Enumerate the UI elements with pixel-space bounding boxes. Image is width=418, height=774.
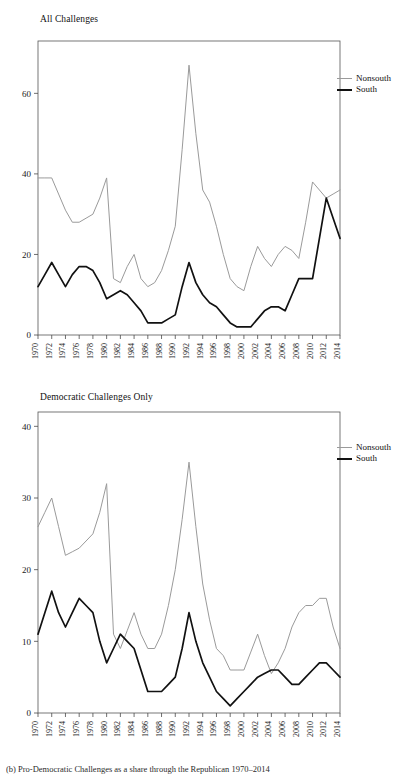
- x-axis-tick-label: 2010: [306, 343, 315, 359]
- x-axis-tick-label: 2012: [319, 343, 328, 359]
- x-axis-tick-label: 2006: [278, 343, 287, 359]
- y-axis-tick-label: 20: [22, 250, 32, 260]
- x-axis-tick-label: 2002: [251, 343, 260, 359]
- plot-frame: [38, 41, 340, 335]
- x-axis-tick-label: 1974: [58, 721, 67, 737]
- x-axis-tick-label: 1984: [127, 343, 136, 359]
- x-axis-tick-label: 1990: [168, 721, 177, 737]
- x-axis-tick-label: 1970: [31, 343, 40, 359]
- y-axis-tick-label: 0: [27, 708, 32, 718]
- series-line-nonsouth: [38, 462, 340, 673]
- legend-row-nonsouth: Nonsouth: [337, 442, 391, 453]
- x-axis-tick-label: 1998: [223, 721, 232, 737]
- x-axis-tick-label: 2004: [264, 343, 273, 359]
- series-line-south: [38, 198, 340, 327]
- y-axis-tick-label: 40: [22, 422, 32, 432]
- x-axis-tick-label: 1994: [196, 721, 205, 737]
- y-axis-tick-label: 20: [22, 565, 32, 575]
- panel-all-challenges: All Challenges 0204060197019721974197619…: [0, 0, 418, 390]
- legend-democratic-challenges-only: Nonsouth South: [337, 442, 391, 464]
- plot-area-all-challenges: 0204060197019721974197619781980198219841…: [0, 0, 418, 390]
- x-axis-tick-label: 2010: [306, 721, 315, 737]
- x-axis-tick-label: 1982: [113, 343, 122, 359]
- legend-swatch-south-icon: [337, 458, 352, 460]
- legend-swatch-nonsouth-icon: [337, 78, 352, 79]
- x-axis-tick-label: 2014: [333, 343, 342, 359]
- x-axis-tick-label: 1980: [100, 343, 109, 359]
- x-axis-tick-label: 1980: [100, 721, 109, 737]
- x-axis-tick-label: 2004: [264, 721, 273, 737]
- x-axis-tick-label: 1996: [209, 343, 218, 359]
- y-axis-tick-label: 10: [22, 637, 32, 647]
- x-axis-tick-label: 1986: [141, 721, 150, 737]
- x-axis-tick-label: 1972: [45, 721, 54, 737]
- x-axis-tick-label: 1976: [72, 343, 81, 359]
- x-axis-tick-label: 2006: [278, 721, 287, 737]
- y-axis-tick-label: 0: [27, 330, 32, 340]
- legend-swatch-nonsouth-icon: [337, 447, 352, 448]
- series-line-nonsouth: [38, 65, 340, 291]
- panel-democratic-challenges-only: Democratic Challenges Only 0102030401970…: [0, 385, 418, 773]
- x-axis-tick-label: 1978: [86, 343, 95, 359]
- y-axis-tick-label: 30: [22, 493, 32, 503]
- legend-label-nonsouth: Nonsouth: [356, 442, 391, 453]
- x-axis-tick-label: 1996: [209, 721, 218, 737]
- x-axis-tick-label: 1972: [45, 343, 54, 359]
- figure-caption: (b) Pro-Democratic Challenges as a share…: [6, 764, 416, 774]
- x-axis-tick-label: 1990: [168, 343, 177, 359]
- x-axis-tick-label: 2008: [292, 721, 301, 737]
- x-axis-tick-label: 2000: [237, 721, 246, 737]
- x-axis-tick-label: 1992: [182, 721, 191, 737]
- legend-row-south: South: [337, 453, 391, 464]
- x-axis-tick-label: 1970: [31, 721, 40, 737]
- legend-all-challenges: Nonsouth South: [337, 73, 391, 95]
- x-axis-tick-label: 1978: [86, 721, 95, 737]
- legend-row-nonsouth: Nonsouth: [337, 73, 391, 84]
- y-axis-tick-label: 60: [22, 89, 32, 99]
- x-axis-tick-label: 2000: [237, 343, 246, 359]
- x-axis-tick-label: 1988: [155, 343, 164, 359]
- x-axis-tick-label: 2014: [333, 721, 342, 737]
- x-axis-tick-label: 1976: [72, 721, 81, 737]
- series-line-south: [38, 591, 340, 706]
- x-axis-tick-label: 1986: [141, 343, 150, 359]
- x-axis-tick-label: 1974: [58, 343, 67, 359]
- x-axis-tick-label: 1992: [182, 343, 191, 359]
- x-axis-tick-label: 2012: [319, 721, 328, 737]
- plot-frame: [38, 412, 340, 713]
- x-axis-tick-label: 1982: [113, 721, 122, 737]
- legend-row-south: South: [337, 84, 391, 95]
- x-axis-tick-label: 1994: [196, 343, 205, 359]
- legend-label-nonsouth: Nonsouth: [356, 73, 391, 84]
- x-axis-tick-label: 1998: [223, 343, 232, 359]
- x-axis-tick-label: 1988: [155, 721, 164, 737]
- x-axis-tick-label: 2002: [251, 721, 260, 737]
- legend-label-south: South: [356, 84, 377, 95]
- legend-swatch-south-icon: [337, 89, 352, 91]
- y-axis-tick-label: 40: [22, 169, 32, 179]
- x-axis-tick-label: 2008: [292, 343, 301, 359]
- x-axis-tick-label: 1984: [127, 721, 136, 737]
- legend-label-south: South: [356, 453, 377, 464]
